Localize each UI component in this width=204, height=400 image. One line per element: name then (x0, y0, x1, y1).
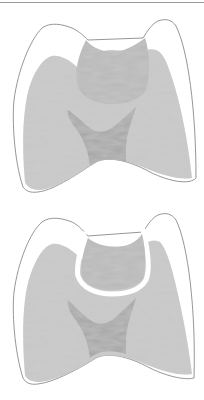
tooth-top (13, 20, 196, 193)
tooth-bottom (13, 214, 194, 385)
tooth-diagram (0, 0, 204, 400)
